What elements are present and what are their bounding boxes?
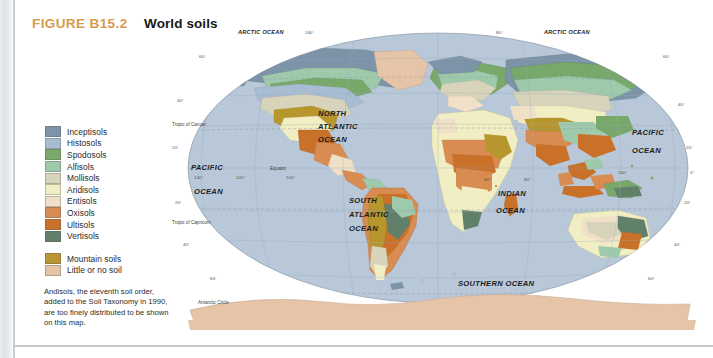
legend-item-histosols[interactable]: Histosols <box>45 138 163 150</box>
tropic-of-capricorn: Tropic of Capricorn <box>172 220 211 225</box>
pacific-ocean-right-l1: PACIFIC <box>632 128 664 137</box>
south-atlantic-l2: ATLANTIC <box>348 210 389 219</box>
north-atlantic-line1: NORTH <box>318 109 347 118</box>
legend-label: Vertisols <box>67 231 99 241</box>
legend-swatch <box>45 207 61 218</box>
graticule-label: 20° <box>684 200 691 205</box>
figure-number: FIGURE B15.2 <box>32 16 128 31</box>
tropic-of-cancer: Tropic of Cancer <box>172 122 206 127</box>
north-atlantic-line3: OCEAN <box>318 135 347 144</box>
graticule-label: 160° <box>618 170 627 175</box>
soil-order-legend: InceptisolsHistosolsSpodosolsAlfisolsMol… <box>45 126 163 242</box>
graticule-label: 0° <box>690 170 694 175</box>
legend-item-vertisols[interactable]: Vertisols <box>45 230 163 242</box>
graticule-label: 100° <box>286 175 295 180</box>
pacific-ocean-left-l1: PACIFIC <box>191 163 223 172</box>
legend-label: Aridisols <box>67 185 99 195</box>
legend-label: Little or no soil <box>67 265 122 275</box>
legend-label: Inceptisols <box>67 127 107 137</box>
legend-item-entisols[interactable]: Entisols <box>45 196 163 208</box>
south-atlantic-l3: OCEAN <box>349 224 378 233</box>
legend-item-oxisols[interactable]: Oxisols <box>45 207 163 219</box>
graticule-label: 40° <box>674 242 681 247</box>
arctic-ocean-left: ARCTIC OCEAN <box>237 29 285 35</box>
antarctica <box>188 294 696 330</box>
legend-swatch <box>45 231 61 242</box>
extra-legend: Mountain soilsLittle or no soil <box>45 253 163 276</box>
graticule-label: 140° <box>194 175 203 180</box>
legend-item-mountain-soils[interactable]: Mountain soils <box>45 253 163 265</box>
graticule-label: 40° <box>678 102 685 107</box>
graticule-label: 20° <box>172 145 179 150</box>
southern-ocean: SOUTHERN OCEAN <box>458 279 535 288</box>
legend-label: Alfisols <box>67 162 94 172</box>
legend-swatch <box>45 265 61 276</box>
arctic-ocean-right: ARCTIC OCEAN <box>543 29 591 35</box>
antarctic-circle: Antarctic Circle <box>198 300 229 305</box>
graticule-label: 40° <box>177 98 184 103</box>
south-atlantic-l1: SOUTH <box>349 196 377 205</box>
graticule-label: 20° <box>686 145 693 150</box>
bottom-rule <box>14 345 713 347</box>
graticule-label: 20° <box>175 200 182 205</box>
world-soils-map: ARCTIC OCEANARCTIC OCEANNORTHATLANTICOCE… <box>166 18 713 338</box>
legend-item-aridisols[interactable]: Aridisols <box>45 184 163 196</box>
legend-swatch <box>45 219 61 230</box>
legend-item-ultisols[interactable]: Ultisols <box>45 219 163 231</box>
legend-swatch <box>45 126 61 137</box>
pacific-ocean-right-l2: OCEAN <box>632 146 661 155</box>
graticule-label: 60° <box>484 177 491 182</box>
indian-ocean-l1: INDIAN <box>498 189 526 198</box>
graticule-label: 120° <box>236 175 245 180</box>
pacific-ocean-left-l2: OCEAN <box>194 187 223 196</box>
legend-item-mollisols[interactable]: Mollisols <box>45 172 163 184</box>
north-atlantic-line2: ATLANTIC <box>317 122 358 131</box>
legend-label: Entisols <box>67 196 97 206</box>
page-gutter <box>0 0 12 358</box>
graticule-label: 60° <box>648 276 655 281</box>
gutter-rule <box>13 0 15 358</box>
equator: Equator <box>270 166 287 171</box>
indian-ocean-l2: OCEAN <box>496 206 525 215</box>
graticule-label: 60° <box>210 276 217 281</box>
legend-item-alfisols[interactable]: Alfisols <box>45 161 163 173</box>
legend-note: Andisols, the eleventh soil order, added… <box>44 287 169 329</box>
legend-swatch <box>45 184 61 195</box>
legend-label: Oxisols <box>67 208 95 218</box>
legend-label: Histosols <box>67 138 101 148</box>
legend-item-inceptisols[interactable]: Inceptisols <box>45 126 163 138</box>
graticule-label: 60° <box>663 54 670 59</box>
legend-item-spodosols[interactable]: Spodosols <box>45 149 163 161</box>
legend-swatch <box>45 149 61 160</box>
legend-label: Mollisols <box>67 173 100 183</box>
graticule-label: 60° <box>199 54 206 59</box>
figure-panel: FIGURE B15.2 World soils InceptisolsHist… <box>16 0 713 345</box>
graticule-label: 80° <box>524 177 531 182</box>
legend-swatch <box>45 196 61 207</box>
legend-swatch <box>45 253 61 264</box>
graticule-label: 40° <box>183 242 190 247</box>
graticule-label: 80° <box>496 30 503 35</box>
legend-label: Ultisols <box>67 220 94 230</box>
legend-label: Spodosols <box>67 150 107 160</box>
legend-label: Mountain soils <box>67 254 121 264</box>
legend-swatch <box>45 138 61 149</box>
legend-swatch <box>45 173 61 184</box>
legend-swatch <box>45 161 61 172</box>
graticule-label: 160° <box>305 30 314 35</box>
legend-item-little-or-no-soil[interactable]: Little or no soil <box>45 265 163 277</box>
